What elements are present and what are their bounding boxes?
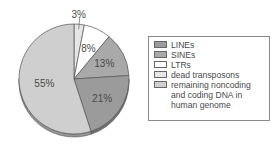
pie-chart: 3%8%13%21%55% — [0, 0, 150, 146]
legend-swatch-sines — [154, 51, 167, 58]
legend-swatch-ltrs — [154, 61, 167, 68]
legend-item-dead-transposons: dead transposons — [154, 70, 269, 80]
slice-label: 21% — [92, 93, 112, 104]
legend-label: SINEs — [171, 50, 195, 60]
slice-label: 13% — [94, 58, 114, 69]
slice-label: 55% — [34, 78, 54, 89]
legend-swatch-dead-transposons — [154, 71, 167, 78]
slice-label: 3% — [71, 9, 86, 20]
legend-swatch-remaining-dna — [154, 81, 167, 88]
legend-item-lines: LINEs — [154, 40, 269, 50]
slice-label: 8% — [81, 43, 96, 54]
legend-label: LTRs — [171, 60, 191, 70]
legend-label: remaining noncoding and coding DNA in hu… — [171, 80, 251, 110]
legend-item-sines: SINEs — [154, 50, 269, 60]
legend-item-remaining-dna: remaining noncoding and coding DNA in hu… — [154, 80, 269, 110]
legend-label: dead transposons — [171, 70, 239, 80]
legend-swatch-lines — [154, 41, 167, 48]
legend-label: LINEs — [171, 40, 194, 50]
legend: LINEs SINEs LTRs dead transposons remain… — [148, 36, 270, 121]
legend-item-ltrs: LTRs — [154, 60, 269, 70]
